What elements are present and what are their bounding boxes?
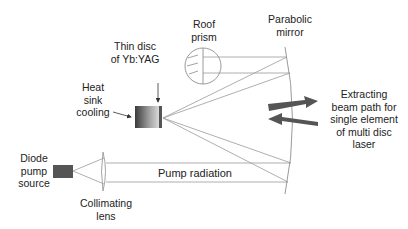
label-collimating-lens: Collimating lens — [75, 197, 137, 222]
label-parabolic-mirror: Parabolic mirror — [260, 13, 320, 38]
heat-sink-pointer — [113, 112, 131, 117]
label-heat-sink: Heat sink cooling — [73, 81, 113, 119]
yb-yag-disc — [135, 106, 162, 128]
diode-pump-source — [53, 165, 73, 178]
label-extracting-beam: Extracting beam path for single element … — [322, 88, 406, 151]
extracting-beam-arrows — [268, 96, 318, 126]
label-pump-radiation: Pump radiation — [150, 167, 240, 180]
label-diode-pump-source: Diode pump source — [14, 152, 54, 190]
beam-paths — [73, 57, 291, 184]
roof-prism — [185, 48, 221, 84]
label-roof-prism: Roof prism — [187, 18, 221, 43]
label-thin-disc: Thin disc of Yb:YAG — [108, 40, 162, 65]
